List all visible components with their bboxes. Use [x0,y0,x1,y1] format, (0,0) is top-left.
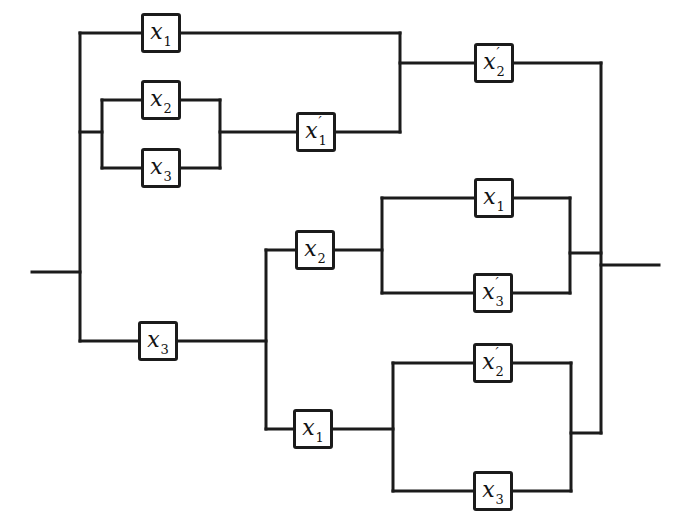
contact-label: x′3 [482,279,504,307]
contact-label: x1 [483,184,505,212]
contact-label-marks: 1 [164,19,172,47]
subscript: 2 [497,66,505,77]
contact-label: x1 [302,415,324,443]
contact-label-marks: ′2 [496,349,504,377]
contact-label: x′2 [482,349,504,377]
contact-x3-bottom-right: x3 [473,471,513,511]
prime-mark: ′ [497,49,505,58]
contact-label-base: x [482,281,494,305]
contact-label-base: x [147,329,159,353]
wires-layer [0,0,673,530]
contact-label-base: x [483,51,495,75]
contact-label: x3 [150,154,172,182]
contact-label-marks: ′2 [497,49,505,77]
contact-label-base: x [483,186,495,210]
prime-mark: ′ [496,279,504,288]
subscript: 3 [496,494,504,505]
contact-label-base: x [304,238,316,262]
prime-mark: ′ [319,118,327,127]
subscript: 1 [316,432,324,443]
contact-label: x3 [147,327,169,355]
contact-label-marks: ′3 [496,279,504,307]
subscript: 2 [164,103,172,114]
contact-x1-prime: x′1 [296,112,336,152]
contact-label-base: x [150,156,162,180]
contact-label-marks: ′1 [319,118,327,146]
contact-label-base: x [482,479,494,503]
contact-label-base: x [482,351,494,375]
contact-x3-upper: x3 [141,148,181,188]
contact-x2-prime-top: x′2 [474,43,514,83]
contact-label-base: x [302,417,314,441]
subscript: 3 [496,296,504,307]
prime-mark: ′ [496,349,504,358]
contact-label: x1 [150,19,172,47]
contact-label-base: x [150,21,162,45]
contact-x3-bottom-left: x3 [138,321,178,361]
contact-label-base: x [305,120,317,144]
contact-label-marks: 3 [496,477,504,505]
subscript: 3 [161,344,169,355]
contact-label: x2 [150,86,172,114]
contact-x3-prime: x′3 [473,273,513,313]
contact-x2-upper: x2 [141,80,181,120]
subscript: 1 [497,201,505,212]
contact-x1-top: x1 [141,13,181,53]
contact-label-marks: 3 [161,327,169,355]
contact-x1-mid: x1 [474,178,514,218]
contact-label-marks: 1 [497,184,505,212]
contact-label-base: x [150,88,162,112]
subscript: 3 [164,171,172,182]
contact-label: x′2 [483,49,505,77]
contact-label-marks: 2 [318,236,326,264]
contact-label: x′1 [305,118,327,146]
contact-label: x2 [304,236,326,264]
subscript: 1 [319,135,327,146]
contact-x1-bottom: x1 [293,409,333,449]
contact-label-marks: 2 [164,86,172,114]
subscript: 1 [164,36,172,47]
contact-label: x3 [482,477,504,505]
circuit-diagram: x1x2x3x′1x′2x2x1x′3x3x1x′2x3 [0,0,673,530]
contact-x2-prime-bottom: x′2 [473,343,513,383]
contact-x2-mid: x2 [295,230,335,270]
subscript: 2 [318,253,326,264]
contact-label-marks: 3 [164,154,172,182]
subscript: 2 [496,366,504,377]
contact-label-marks: 1 [316,415,324,443]
